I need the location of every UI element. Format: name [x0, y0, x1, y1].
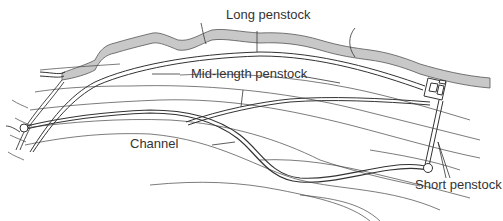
forebay-node — [424, 164, 433, 173]
channel — [26, 110, 432, 182]
short-penstock — [425, 100, 443, 166]
hydro-scheme-diagram: Long penstock Mid-length penstock Channe… — [0, 0, 503, 221]
powerhouse — [424, 78, 446, 100]
label-long-penstock: Long penstock — [226, 8, 311, 21]
label-channel: Channel — [130, 137, 178, 150]
intake-node — [20, 124, 28, 132]
label-short-penstock: Short penstock — [415, 178, 502, 191]
contour-lines — [8, 64, 480, 221]
label-mid-length-penstock: Mid-length penstock — [191, 67, 307, 80]
